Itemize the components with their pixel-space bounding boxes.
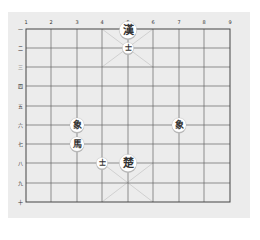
piece-elephant-left[interactable]: 象 <box>70 118 84 132</box>
grid-lines <box>26 29 230 202</box>
file-label-1: 1 <box>24 20 27 25</box>
rank-label-10: 十 <box>18 200 23 205</box>
file-label-4: 4 <box>100 20 103 25</box>
file-label-7: 7 <box>177 20 180 25</box>
piece-general-bottom[interactable]: 楚 <box>120 155 137 172</box>
file-label-8: 8 <box>202 20 205 25</box>
file-label-3: 3 <box>75 20 78 25</box>
rank-label-5: 五 <box>18 104 23 109</box>
rank-label-8: 八 <box>18 161 23 166</box>
file-label-9: 9 <box>228 20 231 25</box>
rank-label-9: 九 <box>18 181 23 186</box>
piece-general-top[interactable]: 漢 <box>120 22 137 39</box>
file-label-2: 2 <box>49 20 52 25</box>
rank-label-7: 七 <box>18 142 23 147</box>
rank-label-3: 三 <box>18 65 23 70</box>
rank-label-2: 二 <box>18 46 23 51</box>
piece-horse[interactable]: 馬 <box>70 137 84 151</box>
piece-elephant-right[interactable]: 象 <box>172 118 186 132</box>
piece-advisor-bottom[interactable]: 士 <box>97 158 108 169</box>
rank-label-1: 一 <box>18 27 23 32</box>
file-label-6: 6 <box>151 20 154 25</box>
rank-label-6: 六 <box>18 123 23 128</box>
piece-advisor-top[interactable]: 士 <box>123 43 134 54</box>
rank-label-4: 四 <box>18 84 23 89</box>
palace-diagonals <box>102 29 153 202</box>
